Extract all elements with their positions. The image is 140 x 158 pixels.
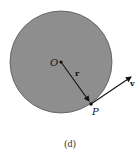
label-p: P (91, 106, 99, 117)
label-o: O (50, 57, 58, 68)
label-v: v (129, 78, 135, 88)
figure-diagram: O r P v (0, 0, 140, 158)
figure-caption: (d) (0, 138, 140, 149)
